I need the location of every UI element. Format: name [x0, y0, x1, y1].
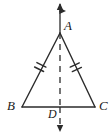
vertex-label-A: A — [64, 19, 72, 32]
vertex-label-D: D — [48, 108, 57, 120]
geometry-figure: A B C D — [0, 0, 111, 135]
vertex-label-B: B — [7, 99, 15, 112]
vertex-label-C: C — [99, 99, 108, 112]
arrow-up-icon — [57, 3, 63, 10]
triangle-side-AC — [60, 33, 95, 107]
arrow-down-icon — [57, 125, 63, 132]
